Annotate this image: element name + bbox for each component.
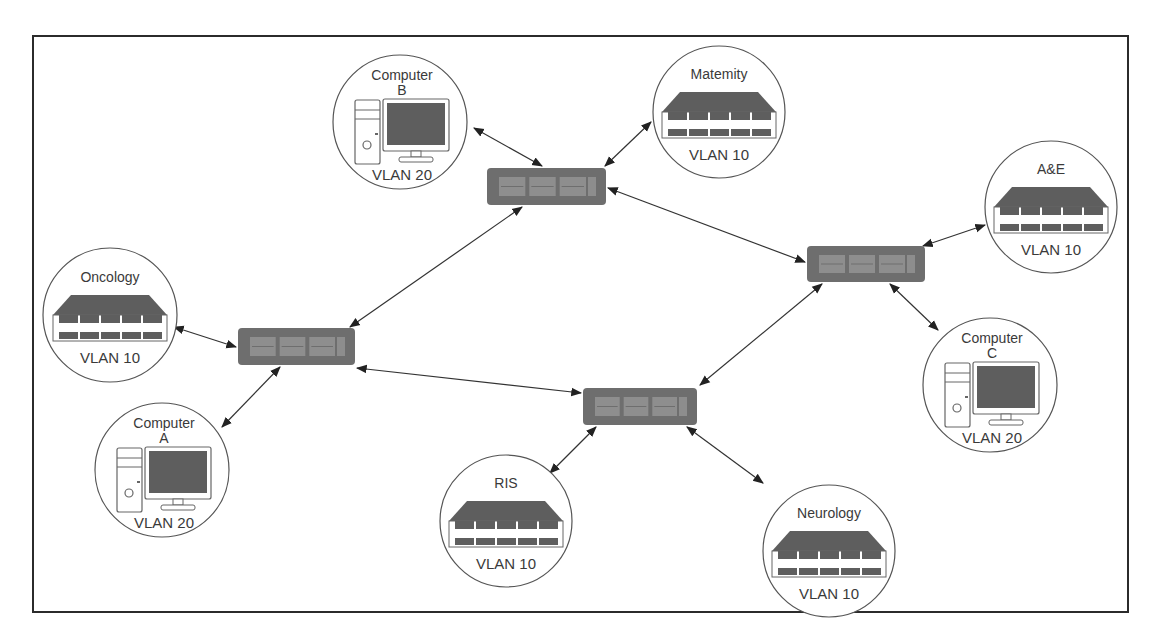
link-computer-a-sw-left <box>222 367 280 427</box>
link-oncology-sw-left <box>174 327 236 347</box>
link-sw-right-computer-c <box>890 284 938 330</box>
link-ae-sw-right <box>923 225 985 246</box>
node-label-sub: A <box>159 430 169 446</box>
server-icon <box>772 531 886 577</box>
node-ris[interactable]: RISVLAN 10 <box>440 455 572 587</box>
vlan-label: VLAN 20 <box>962 429 1022 446</box>
node-label-sub: B <box>397 82 406 98</box>
node-maternity[interactable]: MatemityVLAN 10 <box>653 46 785 178</box>
server-icon <box>53 295 167 341</box>
node-label: Computer <box>961 330 1023 346</box>
switch-sw-left[interactable] <box>238 328 355 365</box>
node-label-sub: C <box>987 345 997 361</box>
status-panel <box>907 255 915 273</box>
vlan-label: VLAN 10 <box>1021 241 1081 258</box>
network-diagram: ComputerBVLAN 20MatemityVLAN 10A&EVLAN 1… <box>0 0 1158 644</box>
node-label: Oncology <box>80 269 139 285</box>
node-computer-a[interactable]: ComputerAVLAN 20 <box>95 403 229 537</box>
switch-sw-right[interactable] <box>807 246 925 282</box>
vlan-label: VLAN 10 <box>689 146 749 163</box>
link-sw-right-sw-bottom <box>700 284 822 385</box>
status-panel <box>337 337 345 356</box>
link-computer-b-sw-top <box>474 128 542 166</box>
nodes-layer: ComputerBVLAN 20MatemityVLAN 10A&EVLAN 1… <box>43 46 1117 617</box>
link-sw-top-sw-left <box>350 207 522 327</box>
link-sw-top-sw-right <box>608 188 805 262</box>
status-panel <box>588 177 596 196</box>
node-computer-b[interactable]: ComputerBVLAN 20 <box>333 55 467 189</box>
server-icon <box>449 501 563 547</box>
server-icon <box>994 187 1108 233</box>
vlan-label: VLAN 20 <box>372 166 432 183</box>
node-computer-c[interactable]: ComputerCVLAN 20 <box>923 318 1057 452</box>
vlan-label: VLAN 20 <box>134 514 194 531</box>
vlan-label: VLAN 10 <box>476 555 536 572</box>
switch-sw-bottom[interactable] <box>583 388 697 425</box>
node-label: RIS <box>494 475 517 491</box>
node-label: Computer <box>371 67 433 83</box>
link-maternity-sw-top <box>605 122 651 166</box>
link-sw-left-sw-bottom <box>357 368 581 393</box>
node-label: Matemity <box>691 66 748 82</box>
switches-layer <box>238 168 925 425</box>
node-oncology[interactable]: OncologyVLAN 10 <box>43 248 177 382</box>
switch-sw-top[interactable] <box>487 168 606 205</box>
status-panel <box>679 397 687 416</box>
node-label: Neurology <box>797 505 861 521</box>
node-ae[interactable]: A&EVLAN 10 <box>985 141 1117 273</box>
vlan-label: VLAN 10 <box>80 349 140 366</box>
node-label: Computer <box>133 415 195 431</box>
server-icon <box>662 92 776 138</box>
link-sw-bottom-ris <box>550 427 596 473</box>
node-label: A&E <box>1037 161 1065 177</box>
link-sw-bottom-neurology <box>687 427 763 483</box>
vlan-label: VLAN 10 <box>799 585 859 602</box>
node-neurology[interactable]: NeurologyVLAN 10 <box>763 485 895 617</box>
